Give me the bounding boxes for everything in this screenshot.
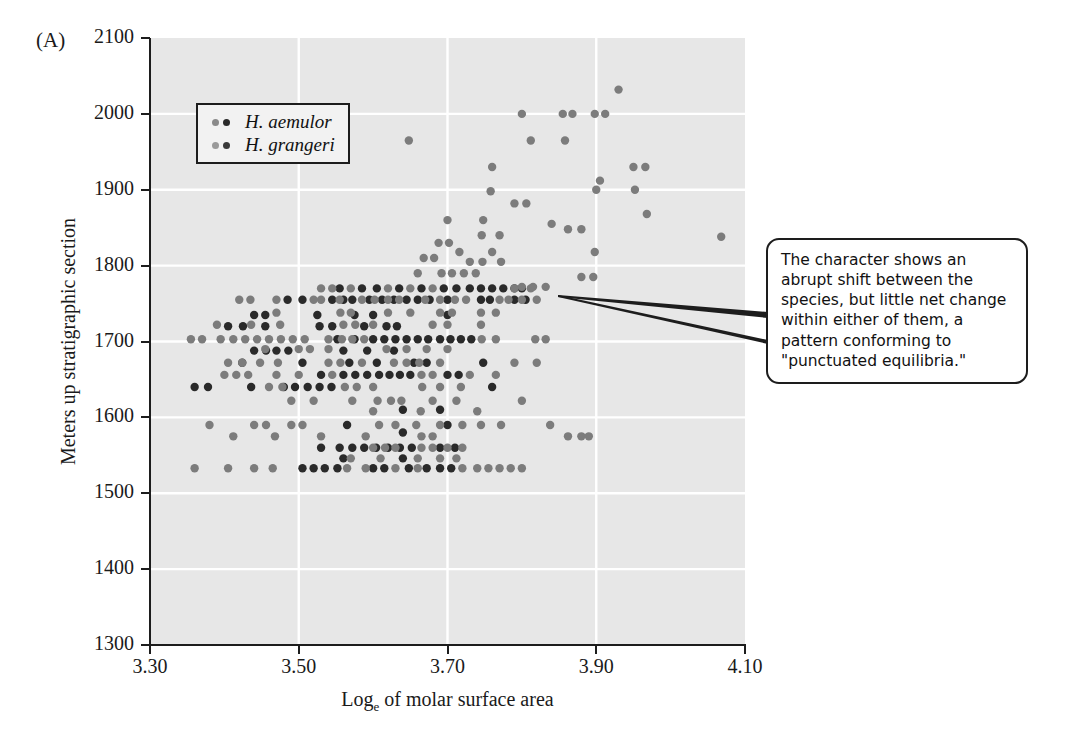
x-tick-mark xyxy=(447,645,449,654)
y-tick-mark xyxy=(141,341,150,343)
y-tick-mark xyxy=(141,492,150,494)
x-tick-mark xyxy=(744,645,746,654)
y-tick-label: 1900 xyxy=(74,177,134,200)
x-axis-title: Loge of molar surface area xyxy=(150,688,745,715)
x-tick-label: 3.30 xyxy=(110,655,190,678)
legend-item-grangeri: H. grangeri xyxy=(208,133,335,156)
y-tick-mark xyxy=(141,265,150,267)
x-tick-label: 3.90 xyxy=(556,655,636,678)
callout-leader-line xyxy=(540,280,780,370)
y-tick-label: 1400 xyxy=(74,556,134,579)
callout-box: The character shows an abrupt shift betw… xyxy=(766,238,1028,384)
y-tick-label: 1300 xyxy=(74,632,134,655)
y-tick-mark xyxy=(141,37,150,39)
x-tick-mark xyxy=(595,645,597,654)
legend-label-aemulor: H. aemulor xyxy=(245,111,332,133)
y-tick-label: 1600 xyxy=(74,404,134,427)
legend-label-grangeri: H. grangeri xyxy=(245,134,335,156)
panel-label: (A) xyxy=(36,28,65,53)
x-tick-label: 4.10 xyxy=(705,655,785,678)
y-tick-mark xyxy=(141,416,150,418)
legend-item-aemulor: H. aemulor xyxy=(208,110,335,133)
x-tick-label: 3.50 xyxy=(259,655,339,678)
callout-text: The character shows an abrupt shift betw… xyxy=(781,250,1014,371)
x-axis-title-main: Log xyxy=(341,688,373,710)
legend-marker-grangeri xyxy=(208,139,238,151)
y-axis-tick-labels: 210020001900180017001600150014001300 xyxy=(72,0,134,742)
figure-panel-a: (A) 210020001900180017001600150014001300… xyxy=(0,0,1074,742)
x-axis-title-rest: of molar surface area xyxy=(379,688,553,710)
y-tick-mark xyxy=(141,568,150,570)
legend-marker-aemulor xyxy=(208,116,238,128)
x-tick-mark xyxy=(298,645,300,654)
x-tick-label: 3.70 xyxy=(408,655,488,678)
y-tick-label: 1700 xyxy=(74,329,134,352)
y-tick-label: 1500 xyxy=(74,480,134,503)
y-tick-mark xyxy=(141,113,150,115)
y-tick-label: 2000 xyxy=(74,101,134,124)
legend: H. aemulor H. grangeri xyxy=(196,103,350,164)
y-tick-label: 2100 xyxy=(74,25,134,48)
x-tick-mark xyxy=(149,645,151,654)
y-tick-label: 1800 xyxy=(74,253,134,276)
y-tick-mark xyxy=(141,189,150,191)
y-axis-title: Meters up stratigraphic section xyxy=(57,152,80,532)
